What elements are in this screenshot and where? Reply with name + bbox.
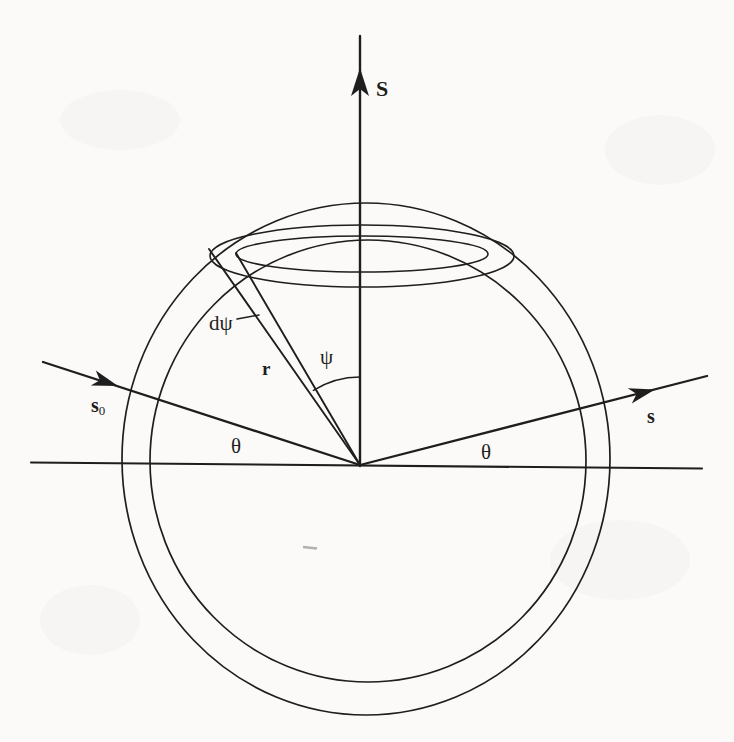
s-axis-label: S (376, 76, 388, 101)
theta-left-label: θ (231, 434, 241, 458)
psi-label: ψ (320, 345, 333, 369)
scan-artifact-dash (303, 547, 317, 549)
scan-smudge (605, 115, 715, 185)
r-label: r (262, 358, 271, 379)
s0-label-subscript: 0 (99, 403, 106, 418)
diagram-canvas: S s0 s r θ θ ψ dψ (0, 0, 734, 742)
scan-smudge (550, 520, 690, 600)
s-label: s (647, 405, 655, 427)
dpsi-label: dψ (209, 311, 233, 335)
s0-label-main: s (91, 394, 99, 416)
scan-smudge (40, 585, 140, 655)
scattering-geometry-figure: S s0 s r θ θ ψ dψ (0, 0, 734, 742)
scan-smudge (60, 90, 180, 150)
theta-right-label: θ (481, 440, 491, 464)
